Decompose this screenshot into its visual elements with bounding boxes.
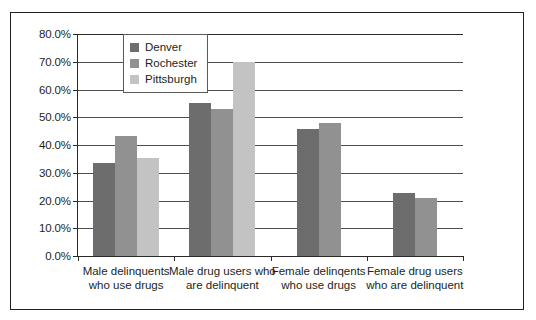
bar-rochester	[211, 109, 233, 256]
x-tick-mark	[271, 256, 272, 261]
y-tick-label: 20.0%	[39, 195, 71, 207]
x-tick-mark	[463, 256, 464, 261]
category-label: Male delinquents who use drugs	[72, 265, 180, 292]
x-tick-mark	[78, 256, 79, 261]
bar-rochester	[319, 123, 341, 256]
bar-denver	[93, 163, 115, 256]
legend-swatch-icon	[130, 75, 139, 84]
category-label: Male drug users who are delinquent	[168, 265, 276, 292]
legend-item-pittsburgh: Pittsburgh	[130, 71, 197, 87]
y-tick-label: 80.0%	[39, 28, 71, 40]
category-label: Female drug users who are delinquent	[361, 265, 469, 292]
bar-rochester	[115, 136, 137, 256]
category-label: Female delinqents who use drugs	[265, 265, 373, 292]
y-tick-label: 60.0%	[39, 84, 71, 96]
bar-group-bars	[367, 34, 463, 256]
y-tick-label: 40.0%	[39, 139, 71, 151]
y-tick-label: 0.0%	[45, 250, 71, 262]
x-tick-mark	[367, 256, 368, 261]
y-tick-label: 70.0%	[39, 56, 71, 68]
y-tick-label: 50.0%	[39, 111, 71, 123]
legend-swatch-icon	[130, 59, 139, 68]
x-tick-mark	[174, 256, 175, 261]
legend-swatch-icon	[130, 43, 139, 52]
bar-denver	[189, 103, 211, 256]
legend-label: Rochester	[145, 57, 197, 69]
bar-denver	[297, 129, 319, 256]
bar-group-bars	[271, 34, 367, 256]
legend-item-denver: Denver	[130, 39, 197, 55]
bar-pittsburgh	[137, 158, 159, 257]
bar-group: Female delinqents who use drugs	[271, 34, 367, 256]
y-tick-label: 30.0%	[39, 167, 71, 179]
legend-item-rochester: Rochester	[130, 55, 197, 71]
bar-pittsburgh	[233, 62, 255, 256]
legend-label: Pittsburgh	[145, 73, 197, 85]
bar-rochester	[415, 198, 437, 256]
legend-label: Denver	[145, 41, 182, 53]
bar-group: Female drug users who are delinquent	[367, 34, 463, 256]
chart-legend: DenverRochesterPittsburgh	[123, 34, 208, 93]
chart-figure: 80.0%70.0%60.0%50.0%40.0%30.0%20.0%10.0%…	[10, 12, 524, 310]
y-tick-label: 10.0%	[39, 222, 71, 234]
bar-denver	[393, 193, 415, 256]
